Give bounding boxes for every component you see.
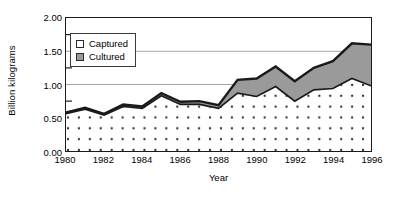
x-tick-label: 1990 <box>246 154 267 165</box>
chart-legend: Captured Cultured <box>70 33 136 67</box>
y-axis-title: Billion kilograms <box>0 0 22 160</box>
y-axis-tick-labels: 0.000.501.001.502.00 <box>22 0 62 197</box>
captured-swatch-icon <box>76 40 84 48</box>
x-tick-label: 1994 <box>323 154 344 165</box>
cultured-swatch-icon <box>76 53 84 61</box>
x-tick-label: 1992 <box>285 154 306 165</box>
x-tick-label: 1982 <box>93 154 114 165</box>
legend-item-cultured: Cultured <box>76 50 128 63</box>
x-axis-title-text: Year <box>209 172 228 183</box>
legend-label-captured: Captured <box>89 38 128 49</box>
x-tick-label: 1980 <box>54 154 75 165</box>
y-tick-label: 1.50 <box>22 45 62 56</box>
chart-figure: Billion kilograms 0.000.501.001.502.00 1… <box>0 0 394 197</box>
y-tick-label: 1.00 <box>22 79 62 90</box>
y-axis-title-text: Billion kilograms <box>6 45 17 115</box>
x-axis-title: Year <box>65 172 372 183</box>
legend-item-captured: Captured <box>76 37 128 50</box>
y-tick-label: 2.00 <box>22 12 62 23</box>
x-tick-label: 1986 <box>170 154 191 165</box>
x-axis-tick-labels: 198019821984198619881990199219941996 <box>65 154 372 170</box>
x-tick-label: 1996 <box>361 154 382 165</box>
x-tick-label: 1984 <box>131 154 152 165</box>
x-tick-label: 1988 <box>208 154 229 165</box>
legend-label-cultured: Cultured <box>89 51 125 62</box>
y-tick-label: 0.50 <box>22 113 62 124</box>
